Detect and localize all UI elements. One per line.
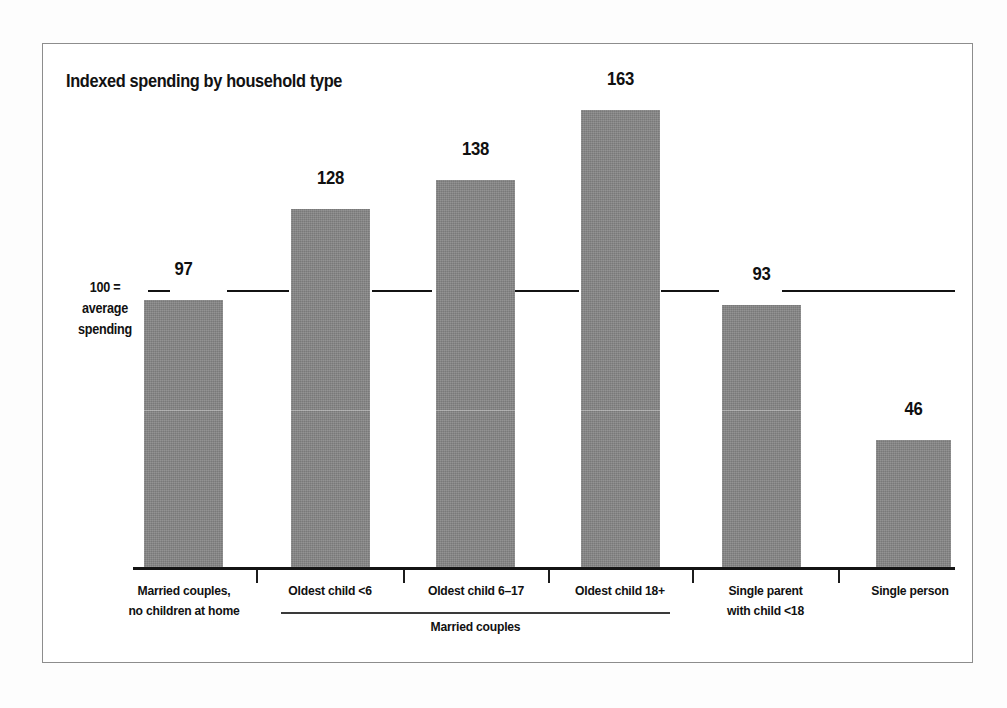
bar-value-label: 93 [727,263,797,285]
category-label-line: Single person [847,581,973,601]
bar-value-label: 163 [586,68,656,90]
group-bracket-label: Married couples [300,619,650,634]
bar-value-label: 128 [296,167,366,189]
reference-line-segment [148,290,170,292]
bar-oldest-child-6-17 [436,180,515,569]
reference-line-segment [372,290,432,292]
reference-line-segment [782,290,955,292]
category-label-married-no-children: Married couples, no children at home [120,581,248,621]
bar-single-person [876,440,951,569]
bar-oldest-child-under-6 [291,209,370,569]
category-label-line: Oldest child <6 [265,581,395,601]
group-bracket-line [281,612,670,614]
bar-oldest-child-18-plus [581,110,660,569]
category-label-oldest-child-under-6: Oldest child <6 [265,581,395,601]
category-label-line: Single parent [701,581,830,601]
bar-value-label: 97 [149,258,219,280]
category-label-line: no children at home [120,601,248,621]
category-label-line: Oldest child 18+ [556,581,684,601]
y-axis-reference-caption: 100 = average spending [66,277,143,340]
category-label-oldest-child-6-17: Oldest child 6–17 [411,581,541,601]
bar-single-parent-with-child [722,305,801,569]
category-label-single-parent: Single parent with child <18 [701,581,830,621]
reference-line-segment [515,290,579,292]
chart-plot-area: 97 128 138 163 93 46 Married couples, no… [0,0,1007,708]
category-label-line: with child <18 [701,601,830,621]
category-label-oldest-child-18-plus: Oldest child 18+ [556,581,684,601]
axis-caption-line: 100 = [66,277,143,298]
bar-scan-seam [291,410,370,411]
x-axis-tick [692,570,694,583]
x-axis-tick [256,570,258,583]
bar-scan-seam [144,410,223,411]
x-axis-tick [403,570,405,583]
category-label-single-person: Single person [847,581,973,601]
reference-line-segment [661,290,719,292]
x-axis-tick [838,570,840,583]
axis-caption-line: average [66,298,143,319]
bar-scan-seam [581,410,660,411]
bar-value-label: 138 [441,138,511,160]
bar-married-no-children [144,300,223,569]
bar-scan-seam [436,410,515,411]
reference-line-segment [227,290,289,292]
category-label-line: Oldest child 6–17 [411,581,541,601]
category-label-line: Married couples, [120,581,248,601]
x-axis-tick [548,570,550,583]
bar-value-label: 46 [881,398,947,420]
axis-caption-line: spending [66,319,143,340]
scanned-page: Indexed spending by household type [0,0,1007,708]
bar-scan-seam [722,410,801,411]
